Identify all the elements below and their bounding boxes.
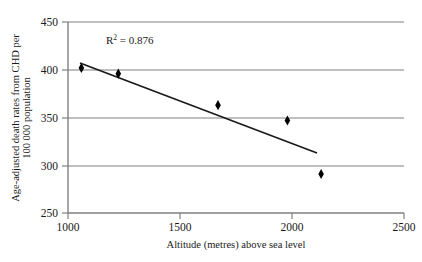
y-tick-label-250: 250 (41, 207, 59, 219)
x-tick-label-1500: 1500 (169, 221, 192, 233)
x-tick-label-1000: 1000 (57, 221, 80, 233)
x-axis-title: Altitude (metres) above sea level (167, 239, 306, 251)
y-tick-label-300: 300 (41, 160, 59, 172)
r-squared-annotation: R2 = 0.876 (106, 33, 154, 46)
r-squared-value: = 0.876 (117, 34, 154, 46)
y-tick-label-450: 450 (41, 16, 59, 28)
y-axis-title-line1: Age-adjusted death rates from CHD per (10, 34, 21, 202)
scatter-chart: 450 400 350 300 250 1000 1500 2000 2500 … (0, 0, 422, 262)
chart-figure: 450 400 350 300 250 1000 1500 2000 2500 … (0, 0, 422, 262)
x-tick-label-2000: 2000 (281, 221, 304, 233)
y-tick-label-400: 400 (41, 64, 59, 76)
x-tick-label-2500: 2500 (393, 221, 416, 233)
y-axis-title-line2: 100 000 population (21, 76, 32, 158)
y-tick-label-350: 350 (41, 112, 59, 124)
